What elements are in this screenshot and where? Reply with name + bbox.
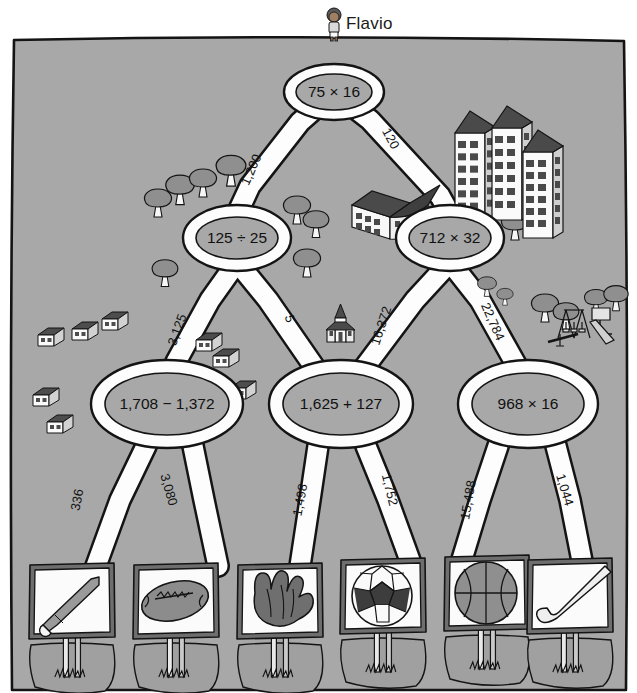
soccer-ball-icon [352, 566, 412, 626]
sign-hockey-stick[interactable] [527, 558, 613, 688]
sign-basketball[interactable] [444, 555, 530, 685]
node-ring-l2-left[interactable]: 125 ÷ 25 [183, 205, 291, 271]
apartment-building-icon [523, 130, 563, 238]
node-label-l3-right: 968 × 16 [498, 395, 559, 412]
node-ring-l2-right[interactable]: 712 × 32 [396, 205, 504, 271]
basketball-icon [455, 562, 517, 624]
node-label-l2-left: 125 ÷ 25 [207, 229, 267, 246]
node-ring-l3-right[interactable]: 968 × 16 [458, 360, 598, 448]
node-label-l2-right: 712 × 32 [420, 229, 481, 246]
node-label-root: 75 × 16 [308, 83, 360, 100]
node-ring-l3-left[interactable]: 1,708 − 1,372 [91, 360, 243, 448]
sign-baseball-glove[interactable] [237, 563, 323, 693]
node-ring-root[interactable]: 75 × 16 [284, 64, 384, 120]
math-maze-figure: Flavio [0, 0, 637, 693]
node-label-l3-middle: 1,625 + 127 [300, 395, 382, 412]
sign-baseball-bat[interactable] [29, 563, 115, 693]
maze-scene: 75 × 16 125 ÷ 25 712 × 32 1,708 − 1,372 … [0, 0, 637, 693]
sign-soccer-ball[interactable] [340, 558, 426, 688]
node-ring-l3-middle[interactable]: 1,625 + 127 [269, 360, 413, 448]
node-label-l3-left: 1,708 − 1,372 [119, 395, 214, 412]
sign-football[interactable] [133, 563, 219, 693]
